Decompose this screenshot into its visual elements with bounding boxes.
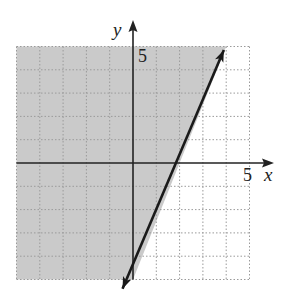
x-axis-label: x [263,164,273,185]
y-tick-label-5: 5 [138,46,147,66]
inequality-graph: y 5 5 x [0,0,289,302]
x-tick-label-5: 5 [243,165,252,185]
y-axis-label: y [111,19,122,40]
